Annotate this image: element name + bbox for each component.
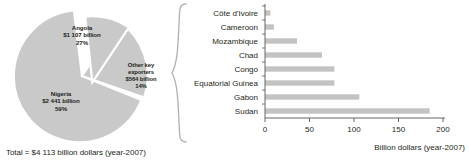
pie-label-nigeria-name: Nigeria (26, 90, 96, 97)
bar-category-label: Equatorial Guinea (194, 79, 259, 88)
pie-total-caption: Total = $4 113 billion dollars (year-200… (6, 148, 146, 157)
bar-mozambique[interactable] (265, 38, 297, 43)
x-tick-label: 150 (392, 125, 406, 134)
pie-label-nigeria-percent: 59% (26, 105, 96, 112)
bar-category-label: Cameroon (221, 23, 258, 32)
pie-label-angola-name: Angola (48, 24, 116, 31)
pie-label-angola-percent: 27% (48, 39, 116, 46)
bar-chart-panel: Côte d'IvoireCameroonMozambiqueChadCongo… (186, 0, 469, 167)
x-tick-label: 200 (436, 125, 450, 134)
bar-chart-svg: Côte d'IvoireCameroonMozambiqueChadCongo… (186, 0, 469, 140)
bar-category-label: Côte d'Ivoire (213, 9, 258, 18)
bar-category-label: Mozambique (212, 37, 258, 46)
bar-category-label: Congo (234, 65, 258, 74)
pie-label-other-name2: exporters (116, 69, 166, 76)
pie-label-other-percent: 14% (116, 83, 166, 90)
bar-sudan[interactable] (265, 108, 430, 113)
figure-root: Angola $1 107 billion 27% Other key expo… (0, 0, 469, 167)
pie-label-angola: Angola $1 107 billion 27% (48, 24, 116, 46)
bar-chart-xaxis-label: Billion dollars (year-2007) (186, 143, 469, 152)
bar-gabon[interactable] (265, 94, 359, 99)
pie-label-other-value: $564 billion (116, 76, 166, 83)
bar-congo[interactable] (265, 66, 334, 71)
x-tick-label: 50 (305, 125, 314, 134)
pie-label-nigeria-value: $2 441 billion (26, 97, 96, 104)
pie-label-other-key-exporters: Other key exporters $564 billion 14% (116, 62, 166, 90)
x-tick-label: 0 (263, 125, 268, 134)
pie-label-angola-value: $1 107 billion (48, 31, 116, 38)
pie-label-other-name1: Other key (116, 62, 166, 69)
bar-category-label: Chad (239, 51, 258, 60)
bar-chad[interactable] (265, 52, 322, 57)
bar-category-label: Sudan (235, 107, 258, 116)
x-tick-label: 100 (347, 125, 361, 134)
bar-cameroon[interactable] (265, 24, 274, 29)
pie-chart-panel: Angola $1 107 billion 27% Other key expo… (0, 0, 180, 167)
bar-category-label: Gabon (234, 93, 258, 102)
bar-equatorial-guinea[interactable] (265, 80, 334, 85)
pie-label-nigeria: Nigeria $2 441 billion 59% (26, 90, 96, 112)
bar-c-te-d-ivoire[interactable] (265, 10, 270, 15)
